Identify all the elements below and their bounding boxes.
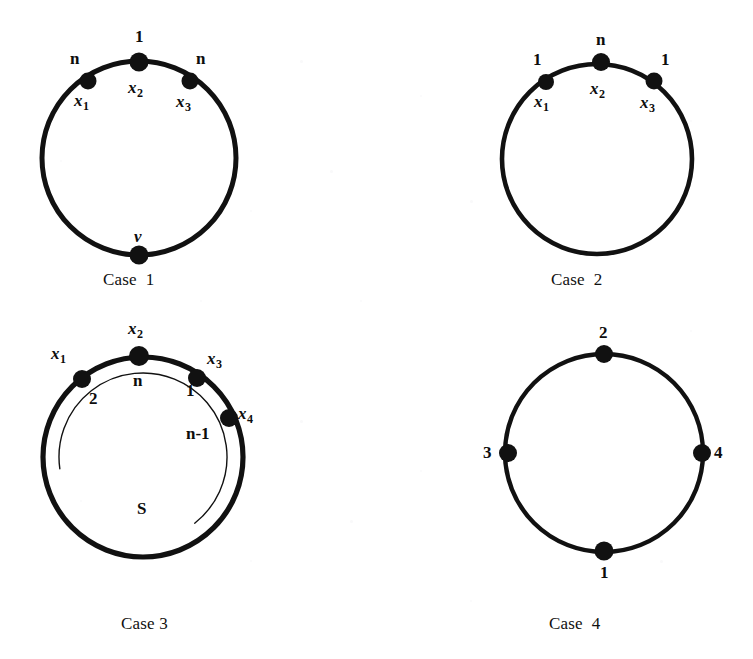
case-3-weight-label-x2: n	[133, 372, 142, 389]
case-3-vertex-x1[interactable]	[73, 370, 91, 388]
case-1-weight-label-v: v	[134, 228, 142, 245]
case-4-weight-label-top: 2	[599, 324, 608, 341]
case-3-weight-label-x1: 2	[89, 390, 98, 407]
case-1-caption: Case 1	[103, 270, 154, 290]
case-3-vertex-label-x3: x3	[207, 350, 222, 370]
case-3-caption: Case 3	[121, 614, 168, 634]
case-4-vertex-left[interactable]	[499, 444, 517, 462]
case-4-vertex-right[interactable]	[693, 444, 711, 462]
case-4-vertex-bottom[interactable]	[595, 542, 614, 561]
case-3-inner-arc-label: S	[137, 500, 146, 517]
case-4-circle	[505, 354, 703, 552]
case-1-vertex-x3[interactable]	[182, 73, 199, 90]
case-3-vertex-x4[interactable]	[220, 409, 238, 427]
case-3-vertex-label-x1: x1	[51, 345, 66, 365]
case-1-vertex-x2[interactable]	[130, 53, 149, 72]
case-4-caption: Case 4	[549, 614, 600, 634]
case-1-vertex-x1[interactable]	[80, 73, 97, 90]
case-2-vertex-x1[interactable]	[538, 74, 554, 90]
case-2-vertex-x2[interactable]	[592, 53, 610, 71]
case-1-vertex-label-x1: x1	[74, 92, 89, 112]
case-2-vertex-label-x3: x3	[640, 94, 655, 114]
case-1-vertex-label-x3: x3	[176, 93, 191, 113]
case-4-weight-label-right: 4	[714, 444, 723, 461]
case-3-weight-label-x4: n-1	[186, 425, 210, 442]
case-3-vertex-x2[interactable]	[129, 346, 149, 366]
case-1-weight-label-x3: n	[196, 50, 205, 67]
case-4-vertex-top[interactable]	[595, 345, 613, 363]
case-4-weight-label-left: 3	[483, 444, 492, 461]
case-3-weight-label-x3: 1	[186, 382, 195, 399]
case-1-weight-label-x1: n	[70, 50, 79, 67]
case-2-vertex-label-x1: x1	[534, 93, 549, 113]
case-2-caption: Case 2	[551, 270, 602, 290]
case-2-vertex-x3[interactable]	[646, 73, 663, 90]
case-3-circle	[43, 357, 243, 557]
panel-case-3	[43, 346, 243, 557]
case-1-vertex-v[interactable]	[130, 246, 149, 265]
case-2-vertex-label-x2: x2	[590, 80, 605, 100]
panel-case-4	[499, 345, 711, 561]
case-2-weight-label-x3: 1	[661, 51, 670, 68]
case-1-vertex-label-x2: x2	[128, 79, 143, 99]
case-3-vertex-label-x2: x2	[128, 320, 143, 340]
case-1-weight-label-x2: 1	[135, 28, 144, 45]
case-4-weight-label-bottom: 1	[600, 564, 609, 581]
case-2-weight-label-x1: 1	[533, 51, 542, 68]
case-3-vertex-label-x4: x4	[238, 405, 253, 425]
case-2-weight-label-x2: n	[596, 31, 605, 48]
figure-canvas: x1nx21x3nvCase 1x11x2nx31Case 2x12x2nx31…	[0, 0, 753, 659]
